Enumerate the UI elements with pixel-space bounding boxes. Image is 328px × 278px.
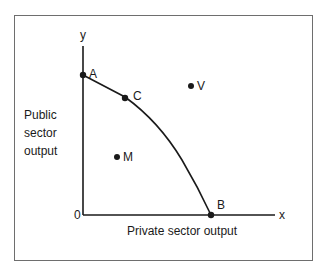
point-m-marker — [114, 154, 120, 160]
point-c-marker — [122, 95, 128, 101]
origin-label: 0 — [74, 208, 81, 222]
point-v-label: V — [197, 79, 205, 93]
point-c-label: C — [133, 89, 142, 103]
point-b-label: B — [217, 198, 225, 212]
y-axis-title-line: Public — [24, 106, 57, 124]
point-a-label: A — [89, 67, 97, 81]
y-axis-title-line: output — [24, 142, 57, 160]
point-v-marker — [188, 83, 194, 89]
point-b-marker — [208, 212, 214, 218]
y-axis-title: Public sector output — [24, 106, 57, 160]
point-m-label: M — [123, 150, 133, 164]
y-axis-title-line: sector — [24, 124, 57, 142]
ppf-curve — [83, 75, 211, 215]
point-a-marker — [80, 72, 86, 78]
x-axis-title: Private sector output — [127, 224, 237, 238]
y-axis-letter: y — [80, 28, 86, 42]
x-axis-letter: x — [279, 208, 285, 222]
